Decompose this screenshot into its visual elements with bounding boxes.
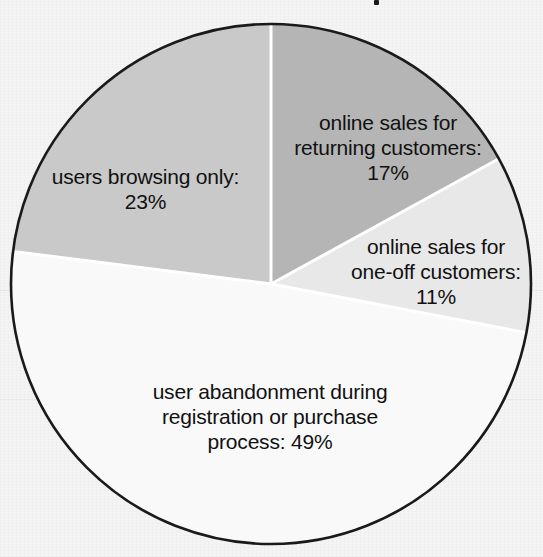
pie-label-online-sales-returning-customers: online sales for returning customers: 17…: [292, 110, 484, 185]
pie-label-user-abandonment: user abandonment during registration or …: [118, 379, 422, 454]
pie-slice-browsing-fill: [13, 24, 271, 284]
chart-page: users browsing only: 23% online sales fo…: [0, 0, 543, 557]
pie-label-online-sales-one-off-customers: online sales for one-off customers: 11%: [341, 234, 531, 309]
pie-label-users-browsing-only: users browsing only: 23%: [38, 164, 253, 214]
